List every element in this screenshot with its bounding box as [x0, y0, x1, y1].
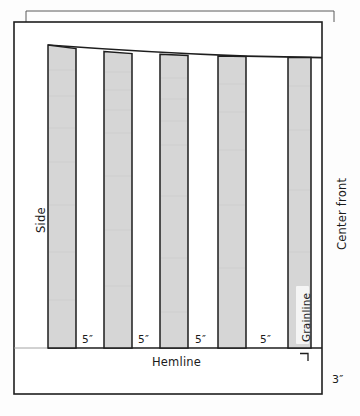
- gore-panel-shape-3: [160, 54, 188, 348]
- gore-panel-shape-1: [48, 45, 76, 348]
- diagram-canvas: Side Center front Grainline Hemline 3″ 5…: [0, 0, 360, 416]
- pattern-diagram-svg: [0, 0, 360, 416]
- center-front-label: Center front: [337, 178, 349, 250]
- gore-panel-shape-4: [218, 56, 246, 348]
- segment-label: 5″: [82, 334, 93, 345]
- gore-panel: [48, 45, 76, 348]
- gore-panel: [160, 54, 188, 348]
- segment-label: 5″: [260, 334, 271, 345]
- hem-depth-label: 3″: [332, 374, 344, 385]
- segment-label: 5″: [138, 334, 149, 345]
- gore-panel: [218, 56, 246, 348]
- segment-label: 5″: [195, 334, 206, 345]
- gore-panel-shape-2: [104, 51, 132, 348]
- hemline-label: Hemline: [152, 357, 201, 369]
- gore-panel: [104, 51, 132, 348]
- grainline-label: Grainline: [301, 293, 312, 342]
- side-label: Side: [36, 207, 48, 233]
